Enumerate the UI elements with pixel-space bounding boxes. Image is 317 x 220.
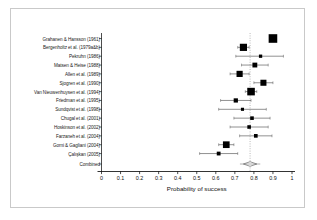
x-tick-label: 0.3 bbox=[155, 175, 163, 181]
study-estimate-marker bbox=[259, 55, 262, 58]
x-tick-label: 0.4 bbox=[174, 175, 182, 181]
plot-area: Grahanen & Hansson (1961)Bergenholtz et … bbox=[0, 0, 317, 220]
x-tick-label: 0.5 bbox=[193, 175, 201, 181]
x-tick-label: 0.1 bbox=[117, 175, 125, 181]
x-tick-label: 1 bbox=[291, 175, 294, 181]
forest-plot-figure: Grahanen & Hansson (1961)Bergenholtz et … bbox=[0, 0, 317, 220]
study-estimate-marker bbox=[241, 108, 244, 111]
study-estimate-marker bbox=[260, 80, 266, 86]
forest-plot-canvas bbox=[0, 0, 317, 220]
study-estimate-marker bbox=[217, 152, 221, 156]
x-axis-title: Probability of success bbox=[167, 185, 227, 192]
study-estimate-marker bbox=[237, 71, 243, 77]
x-tick-label: 0.8 bbox=[250, 175, 258, 181]
study-estimate-marker bbox=[240, 44, 247, 51]
x-tick-label: 0 bbox=[100, 175, 103, 181]
study-estimate-marker bbox=[223, 141, 230, 148]
study-estimate-marker bbox=[269, 34, 278, 43]
study-estimate-marker bbox=[254, 134, 258, 138]
study-estimate-marker bbox=[250, 116, 254, 120]
study-estimate-marker bbox=[252, 63, 257, 68]
x-tick-label: 0.7 bbox=[231, 175, 239, 181]
study-estimate-marker bbox=[247, 88, 255, 96]
x-tick-label: 0.6 bbox=[212, 175, 220, 181]
study-estimate-marker bbox=[247, 125, 251, 129]
x-tick-label: 0.2 bbox=[136, 175, 144, 181]
x-tick-label: 0.9 bbox=[269, 175, 277, 181]
study-estimate-marker bbox=[234, 98, 238, 102]
